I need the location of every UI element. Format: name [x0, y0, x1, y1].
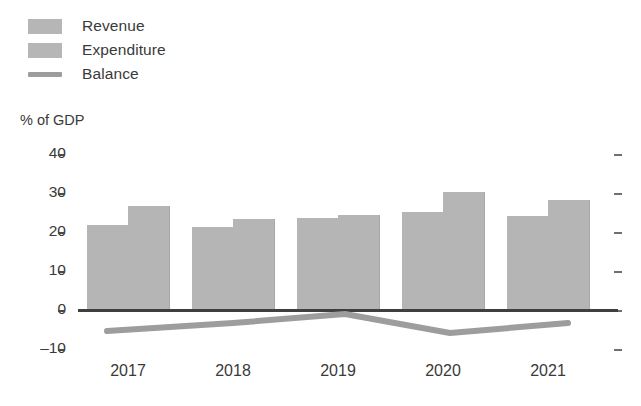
balance-polyline [107, 314, 568, 333]
y-tick-40: 40 [14, 145, 66, 161]
y-tick-label-20: 20 [49, 223, 66, 239]
y-tick-minus10: –10 [14, 340, 66, 356]
bar-revenue-2021 [507, 216, 549, 310]
y-tick-dash-40 [58, 154, 65, 156]
zero-axis-line [78, 309, 618, 312]
x-tick-label-2020: 2020 [402, 362, 484, 380]
bar-revenue-2019 [297, 218, 339, 310]
y-tick-label-30: 30 [49, 184, 66, 200]
x-tick-label-2017: 2017 [87, 362, 169, 380]
bar-revenue-2020 [402, 212, 444, 310]
bar-expenditure-2021 [548, 200, 590, 310]
x-tick-label-2018: 2018 [192, 362, 274, 380]
y-tick-dash-right-30 [614, 193, 622, 195]
y-tick-20: 20 [14, 223, 66, 239]
y-tick-label-minus10: –10 [40, 340, 66, 356]
bar-revenue-2018 [192, 227, 234, 310]
x-tick-label-2021: 2021 [507, 362, 589, 380]
y-tick-dash-minus10 [58, 349, 65, 351]
x-tick-label-2019: 2019 [297, 362, 379, 380]
y-tick-label-0: 0 [57, 301, 66, 317]
y-tick-dash-30 [58, 193, 65, 195]
y-tick-dash-10 [58, 271, 65, 273]
bar-expenditure-2018 [233, 219, 275, 310]
bar-expenditure-2020 [443, 192, 485, 310]
chart-figure: Revenue Expenditure Balance % of GDP 40 … [0, 0, 641, 406]
y-tick-dash-20 [58, 232, 65, 234]
bar-expenditure-2019 [338, 215, 380, 310]
y-tick-30: 30 [14, 184, 66, 200]
bar-revenue-2017 [87, 225, 129, 310]
balance-line-series [0, 0, 641, 406]
y-tick-label-10: 10 [49, 262, 66, 278]
bar-expenditure-2017 [128, 206, 170, 310]
y-tick-10: 10 [14, 262, 66, 278]
y-tick-dash-right-10 [614, 271, 622, 273]
y-tick-label-40: 40 [49, 145, 66, 161]
y-tick-dash-right-20 [614, 232, 622, 234]
y-tick-dash-right-minus10 [614, 349, 622, 351]
y-tick-dash-0 [58, 310, 65, 312]
y-tick-0: 0 [14, 301, 66, 317]
y-tick-dash-right-40 [614, 154, 622, 156]
plot-area: 40 30 20 10 0 –10 [0, 0, 641, 406]
